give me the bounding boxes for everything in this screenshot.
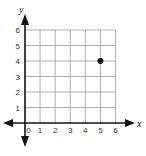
data-point <box>97 58 103 64</box>
y-tick-label: 6 <box>16 26 21 35</box>
y-tick-label: 3 <box>16 73 21 82</box>
y-tick-label: 4 <box>16 57 21 66</box>
tick-labels: 0123456123456 <box>16 26 119 135</box>
x-axis-left-arrow-icon <box>3 119 13 127</box>
x-tick-label: 3 <box>68 126 73 135</box>
y-tick-label: 1 <box>16 104 21 113</box>
y-tick-label: 2 <box>16 88 21 97</box>
y-tick-label: 5 <box>16 42 21 51</box>
data-points <box>97 58 103 64</box>
x-tick-label: 5 <box>98 126 103 135</box>
x-tick-label: 6 <box>113 126 118 135</box>
y-axis-label: y <box>18 4 24 15</box>
grid-lines <box>25 30 116 123</box>
coordinate-plane: 0123456123456 x y <box>0 0 146 156</box>
x-tick-label: 0 <box>26 126 31 135</box>
y-axis-down-arrow-icon <box>21 136 29 147</box>
x-tick-label: 4 <box>83 126 88 135</box>
x-axis-right-arrow-icon <box>125 119 135 127</box>
x-tick-label: 2 <box>53 126 58 135</box>
y-axis-up-arrow-icon <box>21 14 29 25</box>
x-axis-label: x <box>136 118 142 129</box>
x-tick-label: 1 <box>38 126 43 135</box>
